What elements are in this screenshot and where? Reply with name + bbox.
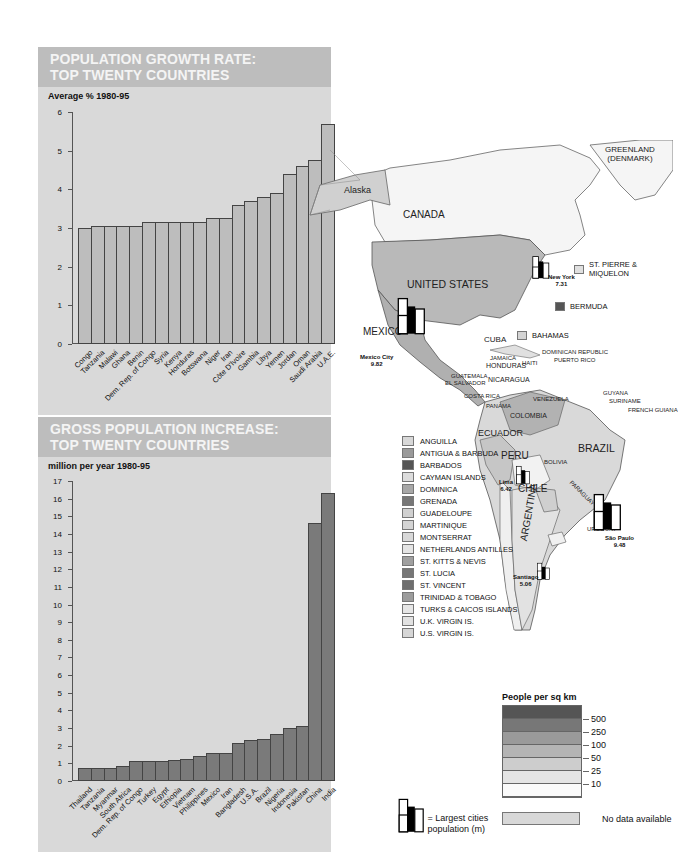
legend-swatch xyxy=(402,544,414,554)
bar xyxy=(155,761,169,781)
legend-swatch xyxy=(402,460,414,470)
density-threshold-label: 250 xyxy=(583,727,606,737)
bar xyxy=(193,222,207,344)
island-legend-item: GUADELOUPE xyxy=(402,507,518,519)
island-legend-item: MARTINIQUE xyxy=(402,519,518,531)
city-key-line-1: = Largest cities xyxy=(427,813,488,823)
bar xyxy=(270,193,284,344)
label-alaska: Alaska xyxy=(344,185,371,195)
no-data-label: No data available xyxy=(602,814,672,824)
swatch-label-line-2: MIQUELON xyxy=(589,269,629,278)
y-tick: 2 xyxy=(68,746,72,747)
gross-increase-chart-title: GROSS POPULATION INCREASE: TOP TWENTY CO… xyxy=(38,417,331,457)
city-key-line-2: population (m) xyxy=(427,824,485,834)
density-band xyxy=(503,784,581,797)
legend-swatch xyxy=(402,604,414,614)
density-threshold-label: 500 xyxy=(583,714,606,724)
y-tick-label: 2 xyxy=(58,741,62,750)
bar xyxy=(219,753,233,781)
bar xyxy=(283,728,297,781)
growth-rate-plot-area: 0123456CongoTanzaniaMalawiGhanaBeninDem.… xyxy=(72,112,334,344)
y-tick: 10 xyxy=(68,605,72,606)
greenland-line-2: (DENMARK) xyxy=(605,154,655,163)
gross-increase-y-label: million per year 1980-95 xyxy=(38,457,331,473)
y-tick: 4 xyxy=(68,189,72,190)
legend-label: DOMINICA xyxy=(420,485,458,494)
label-nicaragua: NICARAGUA xyxy=(488,376,530,383)
bar xyxy=(257,739,271,781)
y-tick: 12 xyxy=(68,569,72,570)
island-legend-item: MONTSERRAT xyxy=(402,531,518,543)
island-legend-item: GRENADA xyxy=(402,495,518,507)
density-legend-title: People per sq km xyxy=(502,692,582,702)
city-icon-new-york xyxy=(532,255,550,283)
bar xyxy=(104,768,118,781)
legend-swatch xyxy=(402,436,414,446)
label-puerto-rico: PUERTO RICO xyxy=(554,357,595,363)
density-band xyxy=(503,732,581,745)
label-costa-rica: COSTA RICA xyxy=(464,393,500,399)
legend-swatch xyxy=(402,532,414,542)
y-tick-label: 4 xyxy=(58,185,62,194)
legend-swatch xyxy=(402,580,414,590)
label-bolivia: BOLIVIA xyxy=(544,459,567,465)
bar xyxy=(244,740,258,781)
island-legend-item: ST. KITTS & NEVIS xyxy=(402,555,518,567)
bar xyxy=(78,768,92,781)
greenland-line-1: GREENLAND xyxy=(605,145,655,154)
city-population: 7.31 xyxy=(548,281,575,288)
growth-rate-chart-title: POPULATION GROWTH RATE: TOP TWENTY COUNT… xyxy=(38,47,331,87)
legend-label: ST. KITTS & NEVIS xyxy=(420,557,486,566)
gross-increase-chart-panel: GROSS POPULATION INCREASE: TOP TWENTY CO… xyxy=(38,417,331,852)
density-band xyxy=(503,758,581,771)
bar xyxy=(180,222,194,344)
y-tick-label: 3 xyxy=(58,724,62,733)
swatch-label: BERMUDA xyxy=(570,302,608,311)
title-line-1: GROSS POPULATION INCREASE: xyxy=(50,421,319,437)
legend-swatch xyxy=(402,616,414,626)
island-legend-item: ANGUILLA xyxy=(402,435,518,447)
label-guatemala: GUATEMALA xyxy=(451,373,488,379)
bar xyxy=(116,766,130,781)
y-tick: 5 xyxy=(68,693,72,694)
density-band xyxy=(503,771,581,784)
y-tick: 6 xyxy=(68,675,72,676)
y-tick: 13 xyxy=(68,552,72,553)
legend-label: TRINIDAD & TOBAGO xyxy=(420,593,496,602)
y-axis xyxy=(72,481,73,781)
density-band xyxy=(503,706,581,719)
legend-label: ST. VINCENT xyxy=(420,581,466,590)
density-threshold-label: 100 xyxy=(583,740,606,750)
legend-label: ANTIGUA & BARBUDA xyxy=(420,449,498,458)
legend-swatch xyxy=(402,472,414,482)
city-name: São Paulo xyxy=(605,535,634,542)
y-tick-label: 9 xyxy=(58,618,62,627)
bar xyxy=(116,226,130,344)
legend-label: MARTINIQUE xyxy=(420,521,467,530)
y-tick-label: 13 xyxy=(53,547,62,556)
title-line-2: TOP TWENTY COUNTRIES xyxy=(50,67,319,83)
y-tick: 3 xyxy=(68,728,72,729)
y-tick: 0 xyxy=(68,344,72,345)
island-legend-item: U.K. VIRGIN IS. xyxy=(402,615,518,627)
bar xyxy=(168,222,182,344)
label-colombia: COLOMBIA xyxy=(510,412,547,419)
y-tick-label: 1 xyxy=(58,759,62,768)
city-population: 9.82 xyxy=(360,361,393,368)
y-tick-label: 0 xyxy=(58,777,62,786)
island-legend: ANGUILLAANTIGUA & BARBUDABARBADOSCAYMAN … xyxy=(402,435,518,639)
y-tick-label: 5 xyxy=(58,688,62,697)
label-venezuela: VENEZUELA xyxy=(533,396,569,402)
legend-label: U.K. VIRGIN IS. xyxy=(420,617,474,626)
bar xyxy=(91,226,105,344)
growth-rate-y-label: Average % 1980-95 xyxy=(38,87,331,103)
legend-swatch xyxy=(402,448,414,458)
bar xyxy=(104,226,118,344)
title-line-2: TOP TWENTY COUNTRIES xyxy=(50,437,319,453)
island-legend-item: DOMINICA xyxy=(402,483,518,495)
legend-swatch xyxy=(402,496,414,506)
legend-swatch xyxy=(402,568,414,578)
island-legend-item: NETHERLANDS ANTILLES xyxy=(402,543,518,555)
bar xyxy=(129,761,143,781)
legend-swatch xyxy=(402,484,414,494)
